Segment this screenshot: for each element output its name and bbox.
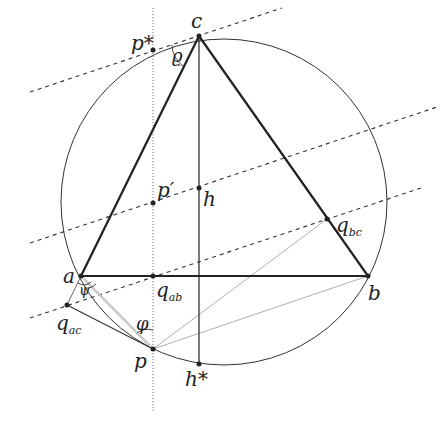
line-p-qbc [153, 219, 327, 349]
label-h: h [203, 187, 216, 211]
label-angle-rho: ϱ [172, 45, 183, 66]
point-c [197, 34, 202, 39]
point-p [151, 347, 156, 352]
label-b: b [368, 281, 381, 305]
point-q-ab [151, 274, 156, 279]
dashed-line-middle [30, 107, 437, 243]
label-p-star: p* [131, 31, 154, 55]
point-q-bc [325, 217, 330, 222]
label-p-prime: p′ [157, 178, 175, 202]
label-q-bc: qbc [336, 213, 362, 239]
label-p: p [134, 349, 147, 373]
label-a: a [63, 264, 75, 288]
triangle-abc [81, 36, 368, 276]
diagram-svg: c a b h h* p p* p′ qab qac qbc ϱ φ ψ [0, 0, 444, 423]
dashed-line-top [30, 8, 282, 92]
label-q-ab: qab [156, 278, 182, 304]
point-p-prime [151, 201, 156, 206]
label-h-star: h* [185, 367, 208, 391]
point-b [366, 274, 371, 279]
point-a [79, 274, 84, 279]
geometry-diagram: c a b h h* p p* p′ qab qac qbc ϱ φ ψ [0, 0, 444, 423]
point-h [197, 186, 202, 191]
label-angle-phi: φ [136, 313, 149, 334]
dashed-line-bottom [30, 187, 424, 318]
label-angle-psi: ψ [79, 282, 91, 298]
label-q-ac: qac [56, 311, 82, 337]
line-p-b [153, 276, 368, 349]
circumcircle [61, 39, 387, 365]
point-q-ac [65, 303, 70, 308]
label-c: c [191, 9, 202, 33]
point-h-star [197, 362, 202, 367]
